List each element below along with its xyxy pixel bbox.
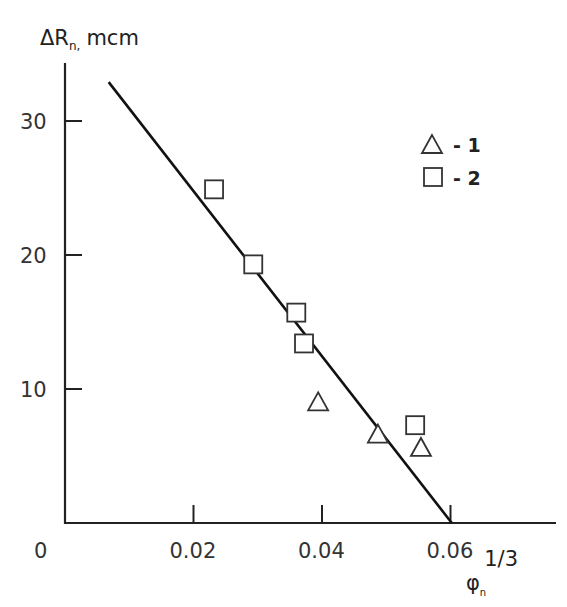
x-tick-label: 0	[34, 539, 47, 563]
y-ticks: 102030	[20, 110, 82, 402]
triangle-marker	[368, 425, 388, 443]
triangle-marker	[308, 392, 328, 410]
data-markers	[205, 180, 431, 456]
square-marker	[406, 416, 424, 434]
chart: ΔRn,mcm 102030 00.020.040.06 φn1/3 - 1 -…	[0, 0, 567, 607]
y-axis-label: ΔRn,mcm	[40, 26, 139, 53]
y-tick-label: 30	[20, 110, 47, 134]
y-tick-label: 20	[20, 244, 47, 268]
legend: - 1 - 2	[422, 134, 481, 189]
y-tick-label: 10	[20, 378, 47, 402]
regression-line	[109, 82, 452, 523]
x-tick-label: 0.02	[170, 539, 217, 563]
x-tick-label: 0.04	[298, 539, 345, 563]
square-marker	[244, 255, 262, 273]
square-marker	[287, 304, 305, 322]
legend-label-2: - 2	[453, 167, 481, 189]
triangle-marker-icon	[422, 135, 442, 153]
square-marker-icon	[424, 168, 442, 186]
legend-label-1: - 1	[453, 134, 481, 156]
x-tick-label: 0.06	[427, 539, 474, 563]
square-marker	[295, 334, 313, 352]
triangle-marker	[411, 438, 431, 456]
square-marker	[205, 180, 223, 198]
x-axis-label: φn1/3	[466, 547, 518, 598]
x-ticks: 00.020.040.06	[34, 505, 473, 563]
